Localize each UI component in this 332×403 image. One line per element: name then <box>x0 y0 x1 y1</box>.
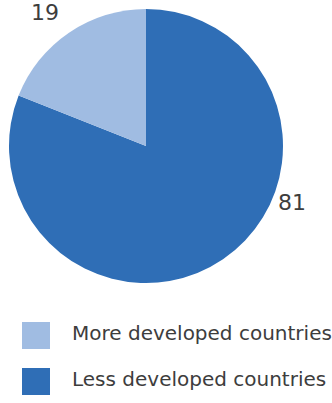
legend-item-less-developed[interactable]: Less developed countries <box>0 364 307 403</box>
pie-value-label-less-developed: 81 <box>278 192 306 214</box>
pie-plot-area: 19 81 <box>0 0 307 300</box>
pie-value-label-more-developed: 19 <box>31 2 59 24</box>
legend-label-less-developed: Less developed countries <box>72 365 326 393</box>
legend-label-more-developed: More developed countries <box>72 319 332 347</box>
chart-legend: More developed countries Less developed … <box>0 314 307 403</box>
legend-item-more-developed[interactable]: More developed countries <box>0 318 307 358</box>
pie-svg <box>0 0 307 300</box>
legend-swatch-less-developed <box>22 368 50 395</box>
legend-swatch-more-developed <box>22 322 50 349</box>
